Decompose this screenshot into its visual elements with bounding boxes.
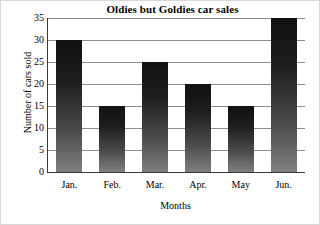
y-axis-tick-label: 15 [34, 101, 44, 111]
y-axis-tick-label: 25 [34, 57, 44, 67]
gridline [48, 84, 305, 85]
x-axis-tick-label: May [218, 179, 264, 190]
y-axis-tick-label: 30 [34, 35, 44, 45]
y-axis-tick-label: 20 [34, 79, 44, 89]
gridline [48, 40, 305, 41]
y-axis-tick-label: 0 [39, 167, 44, 177]
gridline [48, 128, 305, 129]
x-axis-tick-label: Jun. [261, 179, 307, 190]
x-axis-title: Months [47, 200, 304, 211]
y-axis-tick-label: 35 [34, 13, 44, 23]
chart-title: Oldies but Goldies car sales [41, 3, 304, 16]
bar [142, 62, 168, 172]
gridline [48, 150, 305, 151]
y-axis-tick-label: 10 [34, 123, 44, 133]
gridline [48, 62, 305, 63]
x-axis-tick-label: Mar. [132, 179, 178, 190]
bar-chart-figure: Oldies but Goldies car sales Number of c… [0, 0, 320, 225]
x-axis-tick-label: Feb. [89, 179, 135, 190]
x-axis-tick-label: Jan. [46, 179, 92, 190]
bar [99, 106, 125, 172]
bar [271, 18, 297, 172]
y-axis-title: Number of cars sold [22, 13, 33, 173]
x-axis-tick-label: Apr. [175, 179, 221, 190]
gridline [48, 106, 305, 107]
gridline [48, 18, 305, 19]
bar [185, 84, 211, 172]
y-axis-tick-label: 5 [39, 145, 44, 155]
bar [228, 106, 254, 172]
bar [56, 40, 82, 172]
plot-area: 05101520253035Jan.Feb.Mar.Apr.MayJun. [47, 18, 305, 173]
